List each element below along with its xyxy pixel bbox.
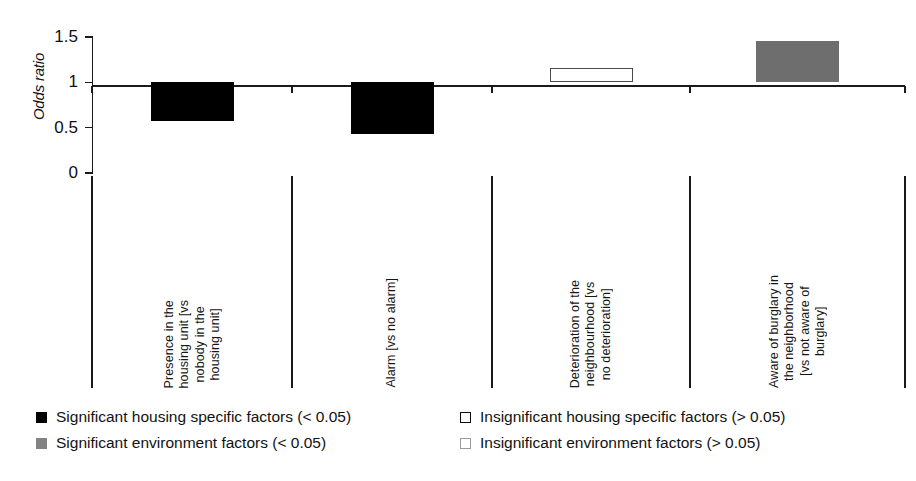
legend-label: Significant environment factors (< 0.05)	[56, 434, 326, 452]
bar-3	[550, 68, 633, 83]
y-tick-label: 0	[32, 164, 78, 181]
chart-legend: Significant housing specific factors (< …	[36, 404, 896, 456]
legend-label: Significant housing specific factors (< …	[56, 408, 351, 426]
y-tick-label: 0.5	[32, 119, 78, 136]
legend-swatch-icon	[460, 438, 471, 449]
category-label-text: Aware of burglary in the neighborhood [v…	[767, 275, 828, 388]
legend-label: Insignificant housing specific factors (…	[480, 408, 785, 426]
category-label-text: Presence in the housing unit [vs nobody …	[162, 300, 223, 388]
category-label-3: Deterioration of the neighbourhood [vs n…	[492, 176, 690, 388]
legend-item: Significant environment factors (< 0.05)	[36, 434, 460, 452]
legend-item: Insignificant environment factors (> 0.0…	[460, 434, 896, 452]
category-label-2: Alarm [vs no alarm]	[292, 176, 492, 388]
y-tick-label: 1	[32, 73, 78, 90]
legend-swatch-icon	[460, 412, 471, 423]
legend-label: Insignificant environment factors (> 0.0…	[480, 434, 760, 452]
bars-container	[92, 37, 905, 173]
bar-2	[351, 82, 434, 134]
legend-swatch-icon	[36, 412, 47, 423]
legend-item: Insignificant housing specific factors (…	[460, 408, 896, 426]
category-label-text: Alarm [vs no alarm]	[384, 278, 399, 388]
legend-item: Significant housing specific factors (< …	[36, 408, 460, 426]
bar-1	[151, 82, 234, 121]
category-label-1: Presence in the housing unit [vs nobody …	[92, 176, 292, 388]
category-label-text: Deterioration of the neighbourhood [vs n…	[568, 280, 614, 388]
odds-ratio-bar-chart: Odds ratio 00.511.5 Presence in the hous…	[0, 0, 916, 481]
bar-4	[756, 41, 839, 83]
legend-swatch-icon	[36, 438, 47, 449]
y-tick-label: 1.5	[32, 28, 78, 45]
category-label-4: Aware of burglary in the neighborhood [v…	[690, 176, 905, 388]
